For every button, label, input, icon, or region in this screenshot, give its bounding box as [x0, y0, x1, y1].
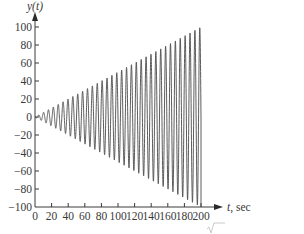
resonance-chart: 100806040200−20−40−60−80−100 02040608010… [0, 0, 304, 234]
y-tick-label: −60 [14, 165, 32, 177]
x-tick-label: 200 [192, 210, 210, 222]
sqrt-fragment-icon [207, 223, 225, 233]
y-axis-label: y(t) [26, 0, 43, 13]
waveform-line [35, 28, 201, 207]
x-axis-ticks: 020406080100120140160180200 [32, 203, 210, 222]
x-tick-label: 20 [46, 210, 58, 222]
y-tick-label: 0 [26, 111, 32, 123]
x-tick-label: 120 [126, 210, 144, 222]
y-tick-label: 20 [21, 93, 33, 105]
x-tick-label: 80 [96, 210, 108, 222]
x-tick-label: 60 [79, 210, 91, 222]
y-axis-arrow-icon [32, 12, 38, 21]
y-tick-label: 100 [15, 21, 33, 33]
y-tick-label: −20 [14, 129, 32, 141]
x-tick-label: 0 [32, 210, 38, 222]
x-tick-label: 140 [143, 210, 161, 222]
y-axis-ticks: 100806040200−20−40−60−80−100 [8, 21, 39, 213]
y-tick-label: 80 [21, 39, 33, 51]
x-tick-label: 160 [159, 210, 177, 222]
x-tick-label: 180 [176, 210, 194, 222]
x-axis-label: t, sec [227, 201, 251, 214]
y-tick-label: −80 [14, 183, 32, 195]
x-tick-label: 40 [62, 210, 74, 222]
y-tick-label: 60 [21, 57, 33, 69]
y-tick-label: 40 [21, 75, 33, 87]
x-tick-label: 100 [109, 210, 127, 222]
y-tick-label: −100 [8, 201, 32, 213]
x-axis-arrow-icon [214, 204, 223, 210]
y-tick-label: −40 [14, 147, 32, 159]
